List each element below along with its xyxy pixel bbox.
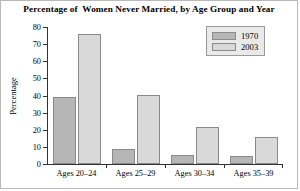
y-tick-40: [43, 96, 47, 97]
y-tick-80: [43, 27, 47, 28]
legend-item-1970[interactable]: 1970: [212, 30, 258, 41]
legend-swatch-2003: [212, 43, 236, 51]
chart-title: Percentage of Women Never Married, by Ag…: [1, 4, 297, 14]
bar-2003-Ages 30–34: [196, 127, 219, 164]
y-axis-line: [47, 27, 48, 165]
y-tick-label-60: 60: [33, 57, 41, 66]
y-tick-label-20: 20: [33, 125, 41, 134]
y-tick-60: [43, 61, 47, 62]
bar-2003-Ages 25–29: [137, 95, 160, 164]
bar-2003-Ages 35–39: [255, 137, 278, 164]
y-tick-label-10: 10: [33, 142, 41, 151]
legend-label-2003: 2003: [241, 42, 258, 52]
chart-legend: 19702003: [206, 26, 265, 56]
y-tick-label-40: 40: [33, 91, 41, 100]
x-axis-label-3: Ages 35–39: [234, 169, 274, 178]
bar-1970-Ages 30–34: [171, 155, 194, 164]
legend-label-1970: 1970: [241, 31, 258, 41]
y-axis-title: Percentage: [7, 27, 19, 165]
x-axis-label-2: Ages 30–34: [175, 169, 215, 178]
x-axis-label-0: Ages 20–24: [57, 169, 97, 178]
y-tick-50: [43, 78, 47, 79]
chart-figure: Percentage of Women Never Married, by Ag…: [0, 0, 298, 189]
y-tick-10: [43, 147, 47, 148]
x-tick-2: [165, 164, 166, 168]
y-tick-70: [43, 44, 47, 45]
y-tick-label-70: 70: [33, 40, 41, 49]
y-tick-label-30: 30: [33, 108, 41, 117]
x-axis-label-1: Ages 25–29: [116, 169, 156, 178]
bar-2003-Ages 20–24: [78, 34, 101, 164]
bar-1970-Ages 20–24: [53, 97, 76, 164]
y-tick-label-50: 50: [33, 74, 41, 83]
legend-item-2003[interactable]: 2003: [212, 41, 258, 52]
y-tick-0: [43, 164, 47, 165]
y-tick-20: [43, 130, 47, 131]
legend-swatch-1970: [212, 32, 236, 40]
y-tick-label-0: 0: [37, 160, 41, 169]
x-tick-3: [224, 164, 225, 168]
x-tick-1: [106, 164, 107, 168]
x-tick-end: [282, 164, 283, 168]
bar-1970-Ages 35–39: [230, 156, 253, 164]
y-tick-30: [43, 113, 47, 114]
y-tick-label-80: 80: [33, 23, 41, 32]
bar-1970-Ages 25–29: [112, 149, 135, 164]
